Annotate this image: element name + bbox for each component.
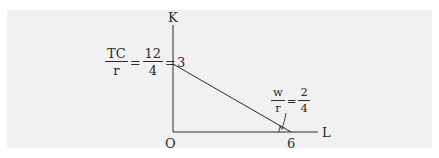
slope-annotation: w r = 2 4: [270, 87, 311, 114]
slope-pointer: [282, 113, 286, 128]
tc-numerator: TC: [105, 47, 128, 62]
twelve-numerator: 12: [143, 47, 164, 62]
tc-over-r-fraction: TC r: [105, 47, 128, 77]
four-denominator: 4: [300, 101, 307, 115]
y-intercept-formula: TC r = 12 4 = 3: [104, 47, 185, 77]
origin-label: O: [165, 137, 176, 150]
w-numerator: w: [271, 87, 285, 101]
two-over-four-fraction: 2 4: [298, 87, 309, 114]
y-intercept-value: 3: [177, 55, 185, 70]
r-denominator: r: [113, 62, 119, 77]
twelve-over-four-fraction: 12 4: [143, 47, 164, 77]
equals-sign: =: [165, 55, 176, 70]
two-numerator: 2: [298, 87, 309, 101]
k-axis-label: K: [168, 11, 178, 24]
equals-sign: =: [130, 55, 141, 70]
four-denominator: 4: [149, 62, 157, 77]
x-intercept-label: 6: [287, 137, 295, 150]
w-over-r-fraction: w r: [271, 87, 285, 114]
isocost-diagram: [0, 0, 439, 158]
l-axis-label: L: [322, 126, 331, 139]
equals-sign: =: [287, 94, 297, 108]
r-denominator: r: [275, 101, 281, 115]
